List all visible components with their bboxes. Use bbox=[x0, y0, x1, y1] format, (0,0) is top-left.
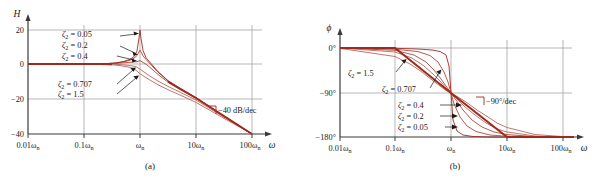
magnitude-zeta-label-0p2-val: = 0.2 bbox=[68, 41, 87, 50]
magnitude-xtick-10wn: 10ωn bbox=[188, 141, 205, 151]
magnitude-zeta-label-0p05: ζ2 = 0.05 bbox=[62, 30, 92, 40]
leader-zeta-1p5 bbox=[396, 62, 404, 72]
magnitude-xtick-0p01wn: 0.01ωn bbox=[16, 141, 39, 151]
phase-ytick-minus180deg: −180° bbox=[316, 133, 336, 142]
magnitude-xtick-100wn-sub: n bbox=[257, 144, 260, 151]
magnitude-plot-panel: H 20 0 −20 −40 0.01ωn 0.1ωn ωn 10ωn bbox=[0, 0, 300, 181]
phase-xtick-wn-sub: n bbox=[452, 147, 455, 154]
phase-xtick-10wn: 10ωn bbox=[499, 144, 516, 154]
phase-grid-horizontal bbox=[340, 48, 572, 93]
magnitude-ytick-0: 0 bbox=[20, 60, 24, 69]
magnitude-xtick-wn-sub: n bbox=[141, 144, 144, 151]
phase-xtick-100wn: 100ωn bbox=[550, 144, 571, 154]
arrowhead-zeta-0p05 bbox=[134, 32, 139, 36]
bode-plot-figure: H 20 0 −20 −40 0.01ωn 0.1ωn ωn 10ωn bbox=[0, 0, 600, 181]
magnitude-ytick-minus20: −20 bbox=[11, 95, 24, 104]
phase-xtick-0p01wn: 0.01ωn bbox=[328, 144, 351, 154]
phase-zeta-label-1p5-val: = 1.5 bbox=[354, 69, 373, 78]
magnitude-zeta-label-0p05-val: = 0.05 bbox=[68, 30, 91, 39]
magnitude-xtick-10wn-text: 10ω bbox=[188, 141, 202, 150]
magnitude-plot-svg: H 20 0 −20 −40 0.01ωn 0.1ωn ωn 10ωn bbox=[0, 0, 300, 181]
phase-zeta-label-0p707: ζ2 = 0.707 bbox=[382, 85, 416, 95]
leader-zeta-1p5 bbox=[117, 78, 136, 94]
magnitude-xtick-0p01wn-text: 0.01ω bbox=[16, 141, 37, 150]
magnitude-xtick-0p1wn-sub: n bbox=[90, 144, 93, 151]
phase-xtick-0p01wn-sub: n bbox=[348, 147, 351, 154]
magnitude-y-axis-arrow bbox=[25, 14, 30, 21]
phase-xtick-10wn-text: 10ω bbox=[499, 144, 513, 153]
magnitude-zeta-label-0p4: ζ2 = 0.4 bbox=[62, 52, 89, 62]
phase-xtick-0p1wn: 0.1ωn bbox=[386, 144, 405, 154]
magnitude-xtick-100wn: 100ωn bbox=[239, 141, 260, 151]
phase-slope-annotation: −90°/dec bbox=[486, 97, 516, 106]
arrowhead-zeta-0p2 bbox=[452, 114, 458, 119]
phase-plot-svg: ϕ 0° −90° −180° 0.01ωn 0.1ωn ωn 10ωn bbox=[300, 0, 600, 181]
phase-xtick-0p1wn-text: 0.1ω bbox=[386, 144, 402, 153]
magnitude-xtick-0p01wn-sub: n bbox=[36, 144, 39, 151]
phase-zeta-label-1p5: ζ2 = 1.5 bbox=[348, 69, 374, 79]
magnitude-xtick-labels: 0.01ωn 0.1ωn ωn 10ωn 100ωn bbox=[16, 141, 260, 151]
magnitude-zeta-label-0p707-val: = 0.707 bbox=[64, 80, 92, 89]
phase-xtick-100wn-sub: n bbox=[568, 147, 571, 154]
magnitude-label-leaders-lower bbox=[117, 70, 136, 94]
magnitude-zeta-label-0p2: ζ2 = 0.2 bbox=[62, 41, 88, 51]
phase-zeta-label-0p2: ζ2 = 0.2 bbox=[398, 112, 424, 122]
phase-y-axis-arrow bbox=[337, 28, 342, 35]
phase-zeta-label-0p05: ζ2 = 0.05 bbox=[398, 123, 428, 133]
magnitude-x-tickmarks bbox=[28, 134, 252, 138]
phase-plot-panel: ϕ 0° −90° −180° 0.01ωn 0.1ωn ωn 10ωn bbox=[300, 0, 600, 181]
magnitude-zeta-label-1p5-val: = 1.5 bbox=[64, 90, 83, 99]
caption-a: (a) bbox=[145, 161, 155, 171]
phase-x-axis-label: ω bbox=[581, 143, 588, 153]
magnitude-xtick-100wn-text: 100ω bbox=[239, 141, 257, 150]
magnitude-xtick-0p1wn-text: 0.1ω bbox=[75, 141, 91, 150]
phase-ytick-0deg: 0° bbox=[329, 44, 336, 53]
magnitude-xtick-0p1wn: 0.1ωn bbox=[75, 141, 94, 151]
phase-zeta-label-0p4-val: = 0.4 bbox=[404, 101, 424, 110]
phase-xtick-0p01wn-text: 0.01ω bbox=[328, 144, 349, 153]
phase-ytick-minus90deg: −90° bbox=[320, 89, 336, 98]
magnitude-slope-annotation: −40 dB/dec bbox=[218, 106, 257, 115]
magnitude-ytick-minus40: −40 bbox=[11, 130, 24, 139]
phase-zeta-label-0p2-val: = 0.2 bbox=[404, 112, 423, 121]
magnitude-zeta-label-1p5: ζ2 = 1.5 bbox=[58, 90, 84, 100]
magnitude-xtick-wn: ωn bbox=[136, 141, 145, 151]
magnitude-zeta-label-0p707: ζ2 = 0.707 bbox=[58, 80, 92, 90]
leader-zeta-0p05 bbox=[120, 34, 136, 36]
phase-xtick-wn: ωn bbox=[447, 144, 456, 154]
magnitude-x-axis-arrow bbox=[265, 131, 272, 136]
phase-xtick-labels: 0.01ωn 0.1ωn ωn 10ωn 100ωn bbox=[328, 144, 571, 154]
magnitude-ytick-20: 20 bbox=[16, 26, 24, 35]
slope-marker-90deg bbox=[476, 97, 484, 105]
phase-xtick-0p1wn-sub: n bbox=[401, 147, 404, 154]
magnitude-label-arrowheads-lower bbox=[130, 67, 139, 79]
magnitude-x-axis-label: ω bbox=[269, 140, 276, 150]
phase-xtick-10wn-sub: n bbox=[512, 147, 515, 154]
phase-y-axis-label: ϕ bbox=[327, 23, 332, 33]
phase-x-axis-arrow bbox=[577, 134, 584, 139]
magnitude-y-axis-label: H bbox=[13, 9, 22, 19]
magnitude-label-leaders-upper bbox=[117, 34, 136, 60]
magnitude-zeta-label-0p4-val: = 0.4 bbox=[68, 52, 88, 61]
magnitude-xtick-10wn-sub: n bbox=[201, 144, 204, 151]
phase-zeta-label-0p707-val: = 0.707 bbox=[388, 85, 416, 94]
phase-zeta-label-0p05-val: = 0.05 bbox=[404, 123, 427, 132]
phase-zeta-label-0p4: ζ2 = 0.4 bbox=[398, 101, 425, 111]
phase-xtick-100wn-text: 100ω bbox=[550, 144, 568, 153]
phase-asymptote bbox=[340, 48, 574, 137]
caption-b: (b) bbox=[450, 161, 461, 171]
leader-zeta-0p707 bbox=[117, 70, 133, 84]
